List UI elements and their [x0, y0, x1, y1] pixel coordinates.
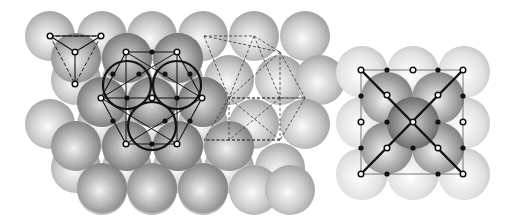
- highlight-sphere: [178, 77, 228, 127]
- filled-site-marker: [149, 49, 154, 54]
- open-site-marker: [72, 81, 78, 87]
- front-sphere: [51, 121, 101, 171]
- filled-site-marker: [124, 95, 129, 100]
- back-sphere: [265, 165, 315, 215]
- open-site-marker: [435, 145, 441, 151]
- filled-site-marker: [435, 171, 440, 176]
- open-site-marker: [174, 49, 180, 55]
- filled-site-marker: [187, 71, 192, 76]
- filled-site-marker: [358, 145, 363, 150]
- open-site-marker: [98, 95, 104, 101]
- open-site-marker: [358, 119, 364, 125]
- open-site-marker: [358, 171, 364, 177]
- filled-site-marker: [187, 118, 192, 123]
- back-sphere: [280, 11, 330, 61]
- open-site-marker: [174, 141, 180, 147]
- crystal-packing-figure: [0, 0, 514, 223]
- back-sphere: [280, 99, 330, 149]
- open-site-marker: [435, 92, 441, 98]
- filled-site-marker: [460, 93, 465, 98]
- open-site-marker: [358, 67, 364, 73]
- front-sphere: [178, 163, 228, 213]
- open-site-marker: [460, 119, 466, 125]
- open-site-marker: [460, 67, 466, 73]
- open-site-marker: [47, 33, 53, 39]
- filled-site-marker: [435, 67, 440, 72]
- open-site-marker: [384, 92, 390, 98]
- open-site-marker: [384, 145, 390, 151]
- filled-site-marker: [435, 119, 440, 124]
- open-site-marker: [410, 67, 416, 73]
- front-sphere: [77, 163, 127, 213]
- highlight-sphere: [102, 33, 152, 83]
- filled-site-marker: [460, 145, 465, 150]
- filled-site-marker: [162, 118, 167, 123]
- front-sphere: [127, 163, 177, 213]
- open-site-marker: [149, 95, 155, 101]
- figure-canvas: [0, 0, 514, 223]
- open-site-marker: [98, 33, 104, 39]
- filled-site-marker: [110, 118, 115, 123]
- filled-site-marker: [174, 95, 179, 100]
- filled-site-marker: [110, 71, 115, 76]
- filled-site-marker: [162, 71, 167, 76]
- open-site-marker: [199, 95, 205, 101]
- filled-site-marker: [384, 67, 389, 72]
- open-site-marker: [72, 49, 78, 55]
- open-site-marker: [460, 171, 466, 177]
- filled-site-marker: [358, 93, 363, 98]
- open-site-marker: [410, 119, 416, 125]
- filled-site-marker: [136, 71, 141, 76]
- filled-site-marker: [384, 119, 389, 124]
- filled-site-marker: [410, 145, 415, 150]
- open-site-marker: [123, 49, 129, 55]
- highlight-sphere: [153, 33, 203, 83]
- filled-site-marker: [384, 171, 389, 176]
- filled-site-marker: [149, 141, 154, 146]
- open-site-marker: [123, 141, 129, 147]
